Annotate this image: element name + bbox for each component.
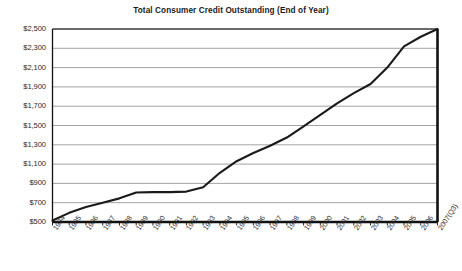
series-line [53,29,438,221]
data-series-line [53,29,438,221]
y-axis-tick-label: $1,700 [2,101,46,110]
gridlines [53,29,438,203]
y-axis-tick-label: $1,900 [2,82,46,91]
y-axis-tick-label: $1,300 [2,140,46,149]
chart-container: Total Consumer Credit Outstanding (End o… [0,0,462,271]
y-axis-tick-label: $700 [2,198,46,207]
y-axis-tick-label: $2,300 [2,43,46,52]
y-axis-tick-label: $2,500 [2,24,46,33]
y-axis-tick-label: $1,500 [2,121,46,130]
y-axis-tick-label: $500 [2,217,46,226]
y-axis-tick-label: $900 [2,178,46,187]
y-axis-tick-label: $1,100 [2,159,46,168]
y-axis-tick-label: $2,100 [2,63,46,72]
